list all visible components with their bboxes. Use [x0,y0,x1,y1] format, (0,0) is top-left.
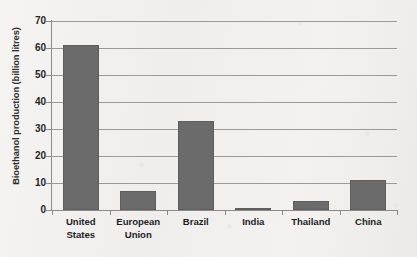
category-label-line: Union [110,229,168,242]
bar-united-states[interactable] [63,45,99,210]
category-label-line: India [225,216,283,229]
category-label-thailand: Thailand [282,216,340,256]
x-tick-mark [340,210,341,215]
bar-slot [340,21,398,210]
bar-chart: Bioethanol production (billion litres) 0… [0,0,417,257]
x-axis-category-labels: UnitedStatesEuropeanUnionBrazilIndiaThai… [52,216,397,256]
x-tick-mark [397,210,398,215]
x-tick-mark [167,210,168,215]
y-tick-label-50: 50 [22,70,46,80]
y-tick-label-20: 20 [22,151,46,161]
category-label-line: European [110,216,168,229]
y-tick-label-30: 30 [22,124,46,134]
category-label-line: Thailand [282,216,340,229]
category-label-european-union: EuropeanUnion [110,216,168,256]
bar-european-union[interactable] [120,191,156,210]
y-tick-mark-30 [46,129,52,130]
y-tick-mark-40 [46,102,52,103]
bar-thailand[interactable] [293,201,329,210]
y-axis-title: Bioethanol production (billion litres) [9,8,23,204]
x-tick-mark [110,210,111,215]
category-label-line: Brazil [167,216,225,229]
bar-slot [110,21,168,210]
y-tick-label-10: 10 [22,178,46,188]
category-label-brazil: Brazil [167,216,225,256]
y-tick-mark-70 [46,21,52,22]
y-axis-tick-labels: 010203040506070 [22,0,46,257]
bar-slot [282,21,340,210]
category-label-line: China [340,216,398,229]
y-tick-label-0: 0 [22,205,46,215]
y-tick-mark-10 [46,183,52,184]
plot-area [52,21,397,210]
x-tick-mark [282,210,283,215]
bar-slot [167,21,225,210]
x-tick-mark [225,210,226,215]
category-label-line: United [52,216,110,229]
bar-slot [52,21,110,210]
category-label-india: India [225,216,283,256]
bar-slot [225,21,283,210]
y-tick-mark-60 [46,48,52,49]
y-tick-label-60: 60 [22,43,46,53]
category-label-united-states: UnitedStates [52,216,110,256]
y-tick-mark-50 [46,75,52,76]
x-axis-tick-marks [52,210,397,215]
x-tick-mark [52,210,53,215]
y-tick-mark-20 [46,156,52,157]
category-label-line: States [52,229,110,242]
bars-layer [52,21,397,210]
category-label-china: China [340,216,398,256]
y-tick-label-70: 70 [22,16,46,26]
bar-china[interactable] [350,180,386,210]
y-tick-label-40: 40 [22,97,46,107]
y-tick-mark-0 [46,210,52,211]
bar-brazil[interactable] [178,121,214,210]
